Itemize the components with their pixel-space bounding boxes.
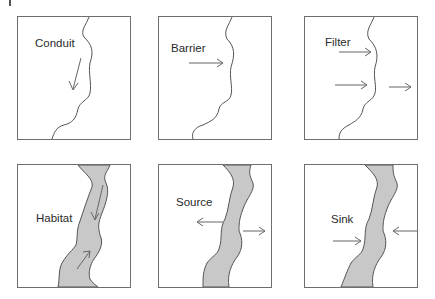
panel-label: Barrier <box>171 42 206 54</box>
panel-label: Source <box>176 196 212 208</box>
panel-label: Conduit <box>35 37 75 49</box>
arrow-right-blocked-icon <box>189 59 223 67</box>
panel-label: Sink <box>331 213 353 225</box>
arrow-right-in-icon <box>333 237 361 245</box>
arrow-left-in-icon <box>393 227 417 235</box>
arrow-right-into-stream-icon <box>335 81 367 89</box>
arrow-down-along-stream-icon <box>69 58 81 90</box>
corner-mark <box>9 0 11 6</box>
panel-filter: Filter <box>304 16 418 140</box>
panel-conduit: Conduit <box>17 16 131 140</box>
panel-label: Filter <box>325 36 351 48</box>
panel-habitat: Habitat <box>17 164 131 288</box>
sink-diagram <box>305 165 417 287</box>
habitat-diagram <box>18 165 130 287</box>
conduit-diagram <box>18 17 130 139</box>
filter-diagram <box>305 17 417 139</box>
arrow-left-out-icon <box>197 218 223 226</box>
arrow-right-passed-through-icon <box>389 83 411 91</box>
arrow-right-out-icon <box>243 227 265 235</box>
barrier-diagram <box>159 17 271 139</box>
panel-source: Source <box>158 164 272 288</box>
panel-barrier: Barrier <box>158 16 272 140</box>
panel-sink: Sink <box>304 164 418 288</box>
source-diagram <box>159 165 271 287</box>
panel-label: Habitat <box>36 212 72 224</box>
arrow-right-stopped-icon <box>339 48 371 56</box>
